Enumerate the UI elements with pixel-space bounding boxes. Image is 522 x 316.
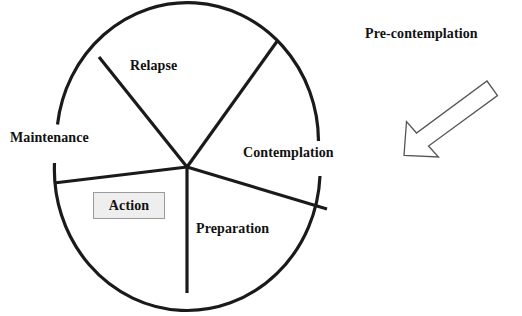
wheel-segment-label-maintenance: Maintenance: [10, 131, 89, 145]
wheel-segment-label-preparation: Preparation: [196, 222, 269, 236]
precontemplation-label: Pre-contemplation: [365, 27, 478, 41]
action-callout-box: Action: [93, 192, 165, 219]
stages-of-change-diagram: Relapse Contemplation Preparation Mainte…: [0, 0, 522, 316]
wheel-segment-label-contemplation: Contemplation: [243, 146, 334, 160]
label-layer: Relapse Contemplation Preparation Mainte…: [0, 0, 522, 316]
wheel-segment-label-relapse: Relapse: [130, 59, 177, 73]
wheel-segment-label-action: Action: [109, 199, 149, 213]
